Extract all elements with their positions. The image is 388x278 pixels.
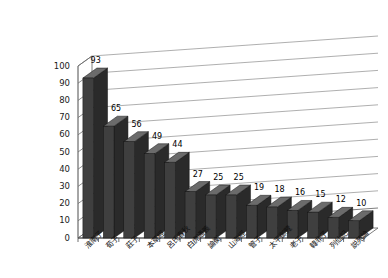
bar-front-face: [103, 126, 114, 238]
bar-front-face: [144, 154, 155, 238]
bar-front-face: [83, 78, 94, 238]
bar-value-label: 56: [131, 121, 141, 129]
bar-value-label: 12: [336, 196, 346, 204]
bar-value-label: 19: [254, 184, 264, 192]
bar-value-label: 16: [295, 189, 305, 197]
bar-front-face: [226, 195, 237, 238]
bar-front-face: [165, 162, 176, 238]
bar-front-face: [124, 142, 135, 238]
bar-value-label: 25: [234, 174, 244, 182]
bar-value-label: 15: [315, 191, 325, 199]
bar-value-label: 65: [111, 105, 121, 113]
bar-chart: 0102030405060708090100 93淮南子65荀子56莊子49本草…: [0, 0, 388, 278]
bar-front-face: [267, 207, 278, 238]
bar-value-label: 49: [152, 133, 162, 141]
bar-value-label: 10: [356, 200, 366, 208]
bar-value-label: 25: [213, 174, 223, 182]
bar-front-face: [246, 205, 257, 238]
bar-value-label: 27: [193, 171, 203, 179]
bar-value-label: 93: [91, 57, 101, 65]
bar-value-label: 18: [274, 186, 284, 194]
bar-value-label: 44: [172, 141, 182, 149]
bars-layer: 93淮南子65荀子56莊子49本草經44呂氏春秋27白虎通義25論衡25山海經1…: [0, 0, 388, 278]
